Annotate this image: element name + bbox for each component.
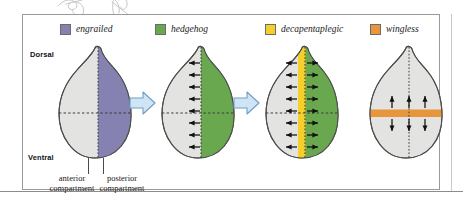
legend-swatch-decapentaplegic bbox=[265, 24, 276, 35]
panel-decapentaplegic bbox=[262, 44, 344, 164]
panel-engrailed bbox=[55, 44, 137, 164]
right-arrow-icon-1 bbox=[128, 88, 158, 118]
legend-item-engrailed: engrailed bbox=[60, 24, 112, 35]
disc-outline-4 bbox=[370, 46, 442, 158]
legend-item-decapentaplegic: decapentaplegic bbox=[265, 24, 343, 35]
leader-line-anterior bbox=[88, 158, 89, 174]
right-arrow-icon-2 bbox=[232, 88, 262, 118]
panel-hedgehog bbox=[158, 44, 240, 164]
wingless-stripe bbox=[366, 110, 448, 118]
legend-label-wingless: wingless bbox=[386, 24, 419, 35]
axis-label-dorsal: Dorsal bbox=[30, 50, 54, 59]
legend-label-hedgehog: hedgehog bbox=[171, 24, 208, 35]
caption-anterior-line2: compartment bbox=[48, 184, 96, 194]
legend-swatch-wingless bbox=[370, 24, 381, 35]
caption-posterior-line2: compartment bbox=[96, 184, 148, 194]
hedgehog-expression-domain-3 bbox=[305, 44, 350, 164]
legend-label-decapentaplegic: decapentaplegic bbox=[281, 24, 343, 35]
legend-swatch-engrailed bbox=[60, 24, 71, 35]
panel-wingless bbox=[366, 44, 448, 164]
legend-swatch-hedgehog bbox=[155, 24, 166, 35]
figure-canvas: engrailed hedgehog decapentaplegic wingl… bbox=[0, 0, 463, 202]
axis-label-ventral: Ventral bbox=[28, 153, 54, 162]
caption-posterior-compartment: posterior compartment bbox=[96, 174, 148, 193]
page-side-rule bbox=[451, 14, 452, 191]
leader-line-posterior bbox=[103, 158, 104, 174]
legend-item-wingless: wingless bbox=[370, 24, 419, 35]
decapentaplegic-stripe bbox=[298, 44, 306, 164]
legend-item-hedgehog: hedgehog bbox=[155, 24, 208, 35]
caption-anterior-compartment: anterior compartment bbox=[48, 174, 96, 193]
legend-label-engrailed: engrailed bbox=[76, 24, 112, 35]
